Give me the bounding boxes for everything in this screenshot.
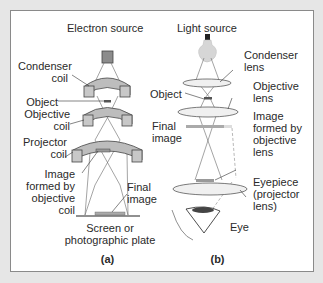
projector-coil-icon [72,141,142,162]
light-bulb-icon [199,34,217,62]
final-image-label-a: Final image [127,181,157,205]
projector-coil-label: Projector coil [18,136,67,160]
image-formed-label-b: Image formed by objective lens [253,110,302,158]
electron-source-icon [102,51,113,63]
final-image-icon [95,212,125,215]
image-formed-label: Image formed by objective coil [18,168,75,216]
objective-coil-icon [83,108,132,127]
objective-coil-label: Objective coil [18,108,70,132]
final-virtual-image-icon [186,125,232,128]
eyepiece-label: Eyepiece (projector lens) [253,176,299,212]
object-label: Object [18,96,58,108]
condenser-lens-icon [183,79,231,87]
final-image-label-b: Final image [152,120,182,144]
electron-source-label: Electron source [67,22,143,34]
eye-label: Eye [230,221,249,233]
caption-b: (b) [205,253,230,265]
caption-a: (a) [95,253,120,265]
objective-lens-label: Objective lens [253,80,299,104]
condenser-coil-icon [84,78,130,97]
light-source-label: Light source [177,22,237,34]
screen-label: Screen or photographic plate [55,222,165,246]
object-label-b: Object [150,88,182,100]
object-specimen-icon [104,100,111,103]
objective-lens-icon [178,107,238,117]
eyepiece-lens-icon [173,183,247,195]
intermediate-image-icon [196,179,214,182]
object-specimen-icon [204,97,212,100]
condenser-coil-label: Condenser coil [18,60,68,84]
condenser-lens-label: Condenser lens [244,49,298,73]
eye-icon [172,207,220,240]
